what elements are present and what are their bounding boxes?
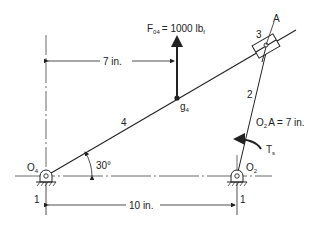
torque-label: Ts [266, 144, 275, 156]
four-bar-linkage-diagram: 7 in. 10 in. 30° F04= 1000 lbf 4 2 3 A g… [0, 0, 318, 225]
ground-right-label: 1 [240, 194, 246, 205]
crank-length-label: O2A = 7 in. [256, 117, 305, 129]
dim-7in-label: 7 in. [103, 56, 122, 67]
cg-label: g4 [180, 101, 190, 113]
torque-arrow [235, 139, 261, 149]
force-label: F04= 1000 lbf [147, 23, 205, 35]
point-a-label: A [273, 13, 280, 24]
pivot-o2-label: O2 [246, 162, 258, 174]
slider-label: 3 [256, 29, 262, 40]
angle-arc [85, 152, 92, 176]
link-4-label: 4 [121, 117, 127, 128]
link-2 [237, 40, 269, 176]
angle-label: 30° [96, 160, 111, 171]
pivot-o4-label: O4 [27, 162, 39, 174]
cg-point [174, 95, 179, 100]
ground-left-label: 1 [34, 194, 40, 205]
link-2-label: 2 [247, 89, 253, 100]
dim-10in-label: 10 in. [129, 200, 153, 211]
